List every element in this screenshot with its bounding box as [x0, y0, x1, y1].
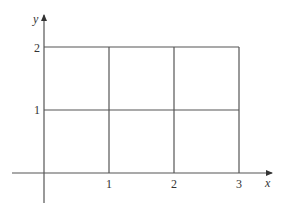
x-tick-2: 2 — [171, 177, 177, 191]
coordinate-grid-diagram: y x 1 2 3 1 2 — [0, 0, 287, 208]
x-tick-1: 1 — [106, 177, 112, 191]
y-tick-1: 1 — [34, 103, 40, 117]
y-axis-label: y — [32, 12, 39, 26]
y-tick-2: 2 — [34, 41, 40, 55]
grid — [44, 47, 239, 173]
x-tick-3: 3 — [236, 177, 242, 191]
x-axis-label: x — [264, 176, 271, 190]
